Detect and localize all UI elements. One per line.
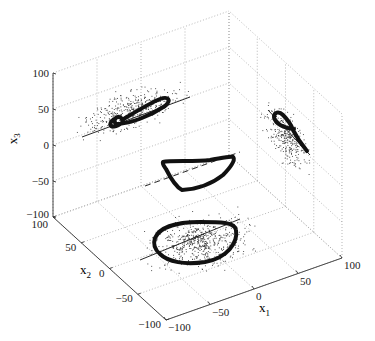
scatter-point — [103, 121, 104, 122]
scatter-point — [278, 147, 279, 148]
scatter-point — [225, 229, 226, 230]
scatter-point — [290, 160, 291, 161]
scatter-point — [186, 251, 187, 252]
scatter-point — [182, 257, 183, 258]
scatter-point — [186, 249, 187, 250]
scatter-point — [271, 129, 272, 130]
scatter-point — [168, 235, 169, 236]
scatter-point — [195, 232, 196, 233]
scatter-point — [287, 155, 288, 156]
scatter-point — [297, 146, 298, 147]
scatter-point — [304, 153, 305, 154]
scatter-point — [297, 149, 298, 150]
scatter-point — [132, 109, 133, 110]
scatter-point — [208, 258, 209, 259]
scatter-point — [296, 157, 297, 158]
scatter-point — [188, 260, 189, 261]
scatter-point — [219, 247, 220, 248]
scatter-point — [295, 149, 296, 150]
scatter-point — [92, 127, 93, 128]
scatter-point — [97, 125, 98, 126]
scatter-point — [197, 248, 198, 249]
scatter-point — [289, 152, 290, 153]
scatter-point — [112, 101, 113, 102]
scatter-point — [93, 131, 94, 132]
scatter-point — [133, 109, 134, 110]
scatter-point — [273, 124, 274, 125]
scatter-point — [168, 239, 169, 240]
scatter-point — [204, 254, 205, 255]
scatter-point — [168, 237, 169, 238]
scatter-point — [285, 131, 286, 132]
scatter-point — [104, 117, 105, 118]
scatter-point — [210, 252, 211, 253]
scatter-point — [220, 235, 221, 236]
scatter-point — [300, 163, 301, 164]
scatter-point — [287, 156, 288, 157]
scatter-point — [165, 269, 166, 270]
scatter-point — [204, 245, 205, 246]
x2-tick — [138, 293, 141, 294]
x-axis-label: x1 — [259, 300, 270, 318]
scatter-point — [292, 162, 293, 163]
scatter-point — [203, 254, 204, 255]
scatter-point — [275, 137, 276, 138]
scatter-point — [285, 158, 286, 159]
scatter-point — [244, 234, 245, 235]
scatter-point — [292, 121, 293, 122]
scatter-point — [120, 104, 121, 105]
scatter-point — [85, 118, 86, 119]
scatter-point — [184, 245, 185, 246]
scatter-point — [195, 228, 196, 229]
x2-tick — [110, 268, 113, 269]
scatter-point — [177, 249, 178, 250]
scatter-point — [151, 88, 152, 89]
scatter-point — [83, 139, 84, 140]
scatter-point — [219, 235, 220, 236]
scatter-point — [209, 241, 210, 242]
scatter-point — [174, 251, 175, 252]
scatter-point — [165, 109, 166, 110]
scatter-point — [122, 113, 123, 114]
x1-tick-label: 50 — [300, 275, 312, 287]
scatter-point — [174, 233, 175, 234]
scatter-point — [207, 226, 208, 227]
scatter-point — [294, 143, 295, 144]
scatter-point — [151, 250, 152, 251]
scatter-point — [284, 132, 285, 133]
scatter-point — [274, 134, 275, 135]
scatter-point — [241, 238, 242, 239]
scatter-point — [180, 248, 181, 249]
scatter-point — [275, 131, 276, 132]
scatter-point — [294, 162, 295, 163]
scatter-point — [113, 114, 114, 115]
scatter-point — [127, 129, 128, 130]
scatter-point — [227, 234, 228, 235]
scatter-point — [121, 129, 122, 130]
scatter-point — [179, 252, 180, 253]
scatter-point — [206, 245, 207, 246]
scatter-point — [206, 248, 207, 249]
scatter-point — [238, 251, 239, 252]
scatter-point — [286, 142, 287, 143]
scatter-point — [296, 142, 297, 143]
scatter-point — [283, 151, 284, 152]
scatter-point — [150, 240, 151, 241]
scatter-point — [208, 251, 209, 252]
scatter-point — [184, 243, 185, 244]
scatter-point — [149, 99, 150, 100]
scatter-point — [105, 115, 106, 116]
scatter-point — [192, 244, 193, 245]
scatter-point — [130, 110, 131, 111]
scatter-point — [193, 255, 194, 256]
scatter-point — [101, 121, 102, 122]
scatter-point — [218, 252, 219, 253]
scatter-point — [134, 123, 135, 124]
scatter-point — [157, 239, 158, 240]
scatter-point — [192, 231, 193, 232]
scatter-point — [233, 254, 234, 255]
scatter-point — [154, 97, 155, 98]
scatter-point — [209, 233, 210, 234]
scatter-point — [179, 235, 180, 236]
scatter-point — [294, 160, 295, 161]
